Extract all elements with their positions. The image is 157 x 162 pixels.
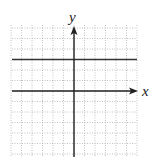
x-axis-label: x xyxy=(141,83,149,99)
y-axis-label: y xyxy=(67,9,76,25)
x-axis xyxy=(12,88,138,95)
coordinate-plane: x y xyxy=(0,0,157,162)
